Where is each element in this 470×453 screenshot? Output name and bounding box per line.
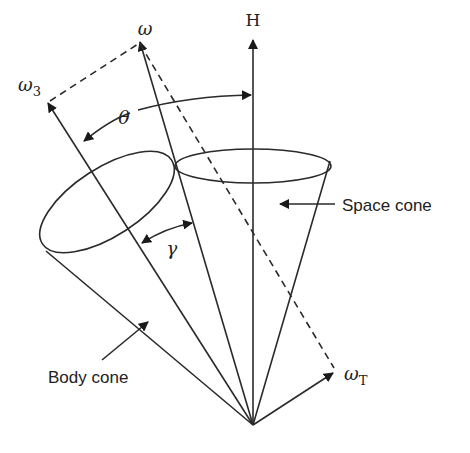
- precession-cone-diagram: H ω ω3 ωT θ γ Space cone Body cone: [0, 0, 470, 453]
- dashed-omega3-to-omega: [50, 44, 138, 101]
- theta-label: θ: [118, 106, 130, 128]
- omegaT-vector: [253, 373, 333, 425]
- body-cone-label: Body cone: [48, 368, 128, 387]
- space-cone-label: Space cone: [342, 196, 432, 215]
- body-cone-pointer: [102, 322, 148, 360]
- gamma-label: γ: [167, 238, 178, 259]
- theta-arc-right: [138, 95, 251, 110]
- omega3-label: ω3: [18, 74, 41, 99]
- omega3-symbol: ω: [18, 74, 33, 95]
- h-label: H: [246, 10, 261, 30]
- omegaT-label: ωT: [344, 363, 368, 388]
- space-cone-edge: [253, 161, 330, 425]
- omegaT-subscript: T: [359, 373, 368, 388]
- omega3-subscript: 3: [33, 84, 41, 99]
- dashed-omega-to-omegaT: [140, 44, 334, 368]
- body-cone-edge: [46, 251, 253, 425]
- omegaT-symbol: ω: [344, 363, 359, 384]
- body-cone-rim: [24, 132, 190, 273]
- omega-label: ω: [138, 18, 153, 39]
